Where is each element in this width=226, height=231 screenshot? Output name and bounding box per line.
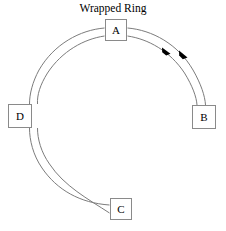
node-c-label: C — [117, 203, 124, 214]
node-a-label: A — [112, 24, 120, 35]
arc-outer-a-to-d — [30, 28, 105, 104]
node-b[interactable]: B — [192, 105, 216, 129]
wrapped-ring-diagram: Wrapped Ring A B — [0, 0, 226, 231]
node-a[interactable]: A — [105, 19, 127, 41]
arc-inner-a-to-b — [128, 36, 198, 105]
arc-outer-a-to-b — [128, 28, 206, 105]
arc-inner-a-to-d — [37, 36, 104, 104]
direction-arrowheads — [162, 48, 188, 60]
node-d-label: D — [16, 110, 24, 121]
arrow-inner-icon — [162, 48, 171, 56]
arc-outer-d-to-c — [30, 128, 110, 205]
node-d[interactable]: D — [8, 104, 32, 128]
node-b-label: B — [200, 111, 207, 122]
arc-inner-d-to-c — [38, 128, 110, 213]
node-c[interactable]: C — [110, 198, 132, 220]
ring-arcs — [30, 28, 206, 213]
arrow-outer-icon — [179, 51, 188, 60]
